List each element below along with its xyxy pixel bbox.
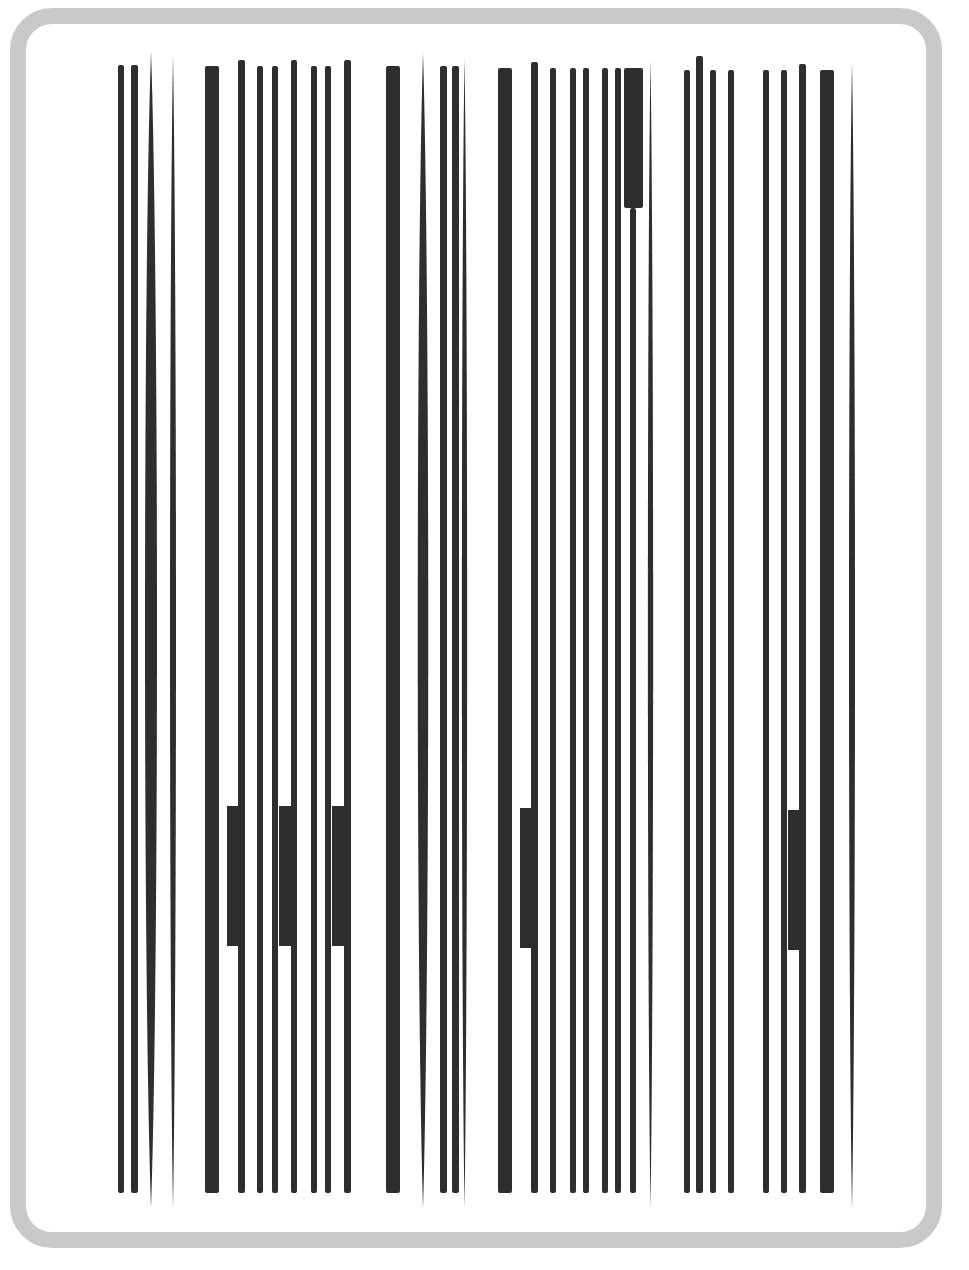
barcode-bar [452,66,459,1193]
barcode-bar [498,68,512,1193]
barcode-bar [624,68,643,208]
barcode-bar [170,56,176,1208]
barcode-bar [238,60,245,1193]
barcode-bar [570,68,576,1193]
barcode-bar [710,70,716,1193]
barcode-bar [462,58,467,1208]
barcode-bar [615,68,621,1193]
barcode-bar [763,70,769,1193]
barcode-bar [728,70,734,1193]
barcode-bar [418,53,429,1208]
barcode-bar [684,70,690,1193]
barcode-bar [820,70,834,1193]
barcode-bar [131,65,138,1193]
barcode-bar [344,60,351,1193]
barcode-bar [311,66,317,1193]
barcode-bar [630,208,636,1193]
distorted-barcode-graphic [0,0,969,1270]
barcode-bar [118,65,124,1193]
barcode-block [788,810,805,950]
barcode-bar [291,60,297,1193]
barcode-bar [145,52,157,1208]
barcode-bar [550,68,556,1193]
barcode-bar [602,68,608,1193]
barcode-bar [272,66,278,1193]
barcode-bar [648,60,653,1208]
barcode-bar [531,62,538,1193]
barcode-bar [781,70,787,1193]
barcode-bar [386,66,400,1193]
barcode-bar [440,66,447,1193]
barcode-bar [257,66,263,1193]
barcode-bar [205,66,219,1193]
barcode-bar [325,66,331,1193]
barcode-block [520,808,537,948]
barcode-bar [849,62,855,1210]
barcode-block [332,806,349,946]
barcode-block [227,806,244,946]
barcode-bar [799,64,806,1193]
barcode-block [279,806,296,946]
barcode-bar [583,68,589,1193]
barcode-bar [696,56,703,1193]
